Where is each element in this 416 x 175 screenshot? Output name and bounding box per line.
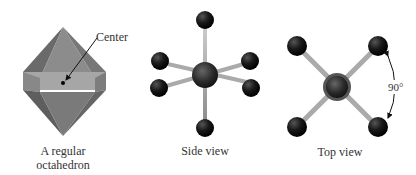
octahedron-solid [23, 27, 106, 136]
angle-label: 90° [388, 80, 403, 94]
side-view-model [150, 11, 260, 137]
side-view-caption: Side view [165, 144, 245, 158]
caption-line-2: octahedron [23, 158, 103, 172]
center-point [61, 81, 65, 85]
caption-line-1: A regular [23, 144, 103, 158]
top-view-caption: Top view [300, 145, 380, 159]
octahedron-caption: A regular octahedron [23, 144, 103, 172]
top-view-model [287, 36, 395, 137]
center-label: Center [96, 30, 128, 44]
